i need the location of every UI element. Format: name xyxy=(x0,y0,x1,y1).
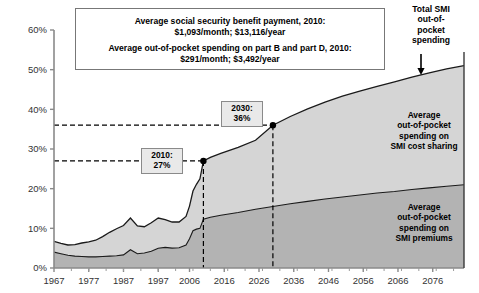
summary-note-box: Average social security benefit payment,… xyxy=(75,8,385,70)
svg-text:2076: 2076 xyxy=(422,275,443,286)
band-label-cost-sharing-line-4: SMI cost sharing xyxy=(372,141,476,151)
band-label-cost-sharing-line-2: out-of-pocket xyxy=(372,120,476,130)
band-label-premiums-line-2: out-of-pocket xyxy=(372,212,476,222)
total-smi-label: Total SMI out-of- pocket spending xyxy=(392,4,470,45)
callout-2030: 2030: 36% xyxy=(221,101,263,127)
svg-text:1997: 1997 xyxy=(148,275,169,286)
svg-text:20%: 20% xyxy=(28,183,48,194)
total-smi-label-line-1: Total SMI xyxy=(392,4,470,14)
svg-text:2016: 2016 xyxy=(214,275,235,286)
total-line-arrow-icon xyxy=(417,54,424,75)
band-label-premiums-line-1: Average xyxy=(372,202,476,212)
note-line-3: Average out-of-pocket spending on part B… xyxy=(76,43,384,54)
svg-text:10%: 10% xyxy=(28,223,48,234)
total-smi-label-line-2: out-of- xyxy=(392,14,470,24)
svg-text:50%: 50% xyxy=(28,64,48,75)
band-label-premiums: Average out-of-pocket spending on SMI pr… xyxy=(372,202,476,243)
band-label-premiums-line-4: SMI premiums xyxy=(372,233,476,243)
svg-text:30%: 30% xyxy=(28,143,48,154)
svg-text:0%: 0% xyxy=(33,262,47,273)
svg-text:2066: 2066 xyxy=(387,275,408,286)
svg-text:2036: 2036 xyxy=(283,275,304,286)
callout-2030-value: 36% xyxy=(226,114,258,124)
svg-text:2026: 2026 xyxy=(248,275,269,286)
band-label-premiums-line-3: spending on xyxy=(372,223,476,233)
total-smi-label-line-4: spending xyxy=(392,35,470,45)
svg-text:1977: 1977 xyxy=(78,275,99,286)
svg-text:1967: 1967 xyxy=(43,275,64,286)
svg-text:60%: 60% xyxy=(28,24,48,35)
total-smi-label-line-3: pocket xyxy=(392,25,470,35)
note-line-4: $291/month; $3,492/year xyxy=(76,54,384,65)
callout-2010: 2010: 27% xyxy=(141,148,183,174)
band-label-cost-sharing-line-3: spending on xyxy=(372,131,476,141)
band-label-cost-sharing: Average out-of-pocket spending on SMI co… xyxy=(372,110,476,151)
chart-container: 0%10%20%30%40%50%60%19671977198719972006… xyxy=(0,0,479,293)
callout-2010-value: 27% xyxy=(146,161,178,171)
svg-text:2046: 2046 xyxy=(318,275,339,286)
band-label-cost-sharing-line-1: Average xyxy=(372,110,476,120)
svg-text:2056: 2056 xyxy=(353,275,374,286)
svg-text:2006: 2006 xyxy=(179,275,200,286)
note-line-1: Average social security benefit payment,… xyxy=(76,16,384,27)
note-line-2: $1,093/month; $13,116/year xyxy=(76,27,384,38)
svg-text:40%: 40% xyxy=(28,104,48,115)
svg-text:1987: 1987 xyxy=(113,275,134,286)
